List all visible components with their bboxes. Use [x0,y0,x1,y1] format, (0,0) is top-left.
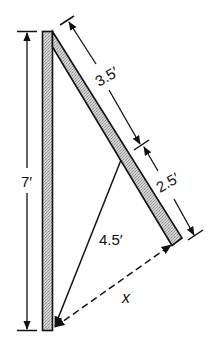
beam-upper-segment-label: 3.5′ [92,63,121,90]
brace-length-label: 4.5′ [99,231,123,248]
beam-lower-segment-label: 2.5′ [153,169,182,196]
unknown-distance-label: x [121,289,131,306]
distance-x-dashed-line [55,245,171,327]
post-height-label: 7′ [21,173,32,190]
vertical-post [43,32,53,331]
diagonal-beam [53,32,183,246]
beam-segment-dimensions [60,16,203,240]
diagram-canvas: 7′ 3.5′ 2.5′ 4.5′ x [0,0,212,358]
